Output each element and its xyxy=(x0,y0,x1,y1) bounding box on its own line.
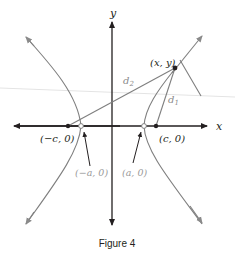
figure-caption: Figure 4 xyxy=(99,238,136,249)
focus-left-label: (−c, 0) xyxy=(40,133,75,144)
focus-right-point xyxy=(154,124,158,128)
vertex-left-point xyxy=(79,124,84,129)
vertex-left-label: (−a, 0) xyxy=(75,167,108,178)
vertex-right-point xyxy=(142,124,147,129)
d1-label: d1 xyxy=(168,94,179,107)
focus-right-label: (c, 0) xyxy=(159,133,185,144)
right-branch-lower-arrow xyxy=(190,206,202,223)
vertex-left-pointer-arrow xyxy=(84,132,90,166)
vertex-right-label: (a, 0) xyxy=(122,167,147,178)
focus-left-point xyxy=(66,124,70,128)
hyperbola-left-branch xyxy=(26,37,81,224)
d2-label: d2 xyxy=(123,75,134,88)
y-axis-label: y xyxy=(109,7,117,20)
x-axis-label: x xyxy=(216,120,223,133)
left-branch-upper-arrow xyxy=(26,37,34,46)
point-xy-label: (x, y) xyxy=(150,57,176,68)
scan-artifact-line xyxy=(0,88,235,97)
hyperbola-diagram: y x (x, y) d2 d1 (−c, 0) (c, 0) (−a, 0) … xyxy=(0,0,235,254)
left-branch-lower-arrow xyxy=(26,212,34,224)
vertex-right-pointer-arrow xyxy=(133,132,141,163)
